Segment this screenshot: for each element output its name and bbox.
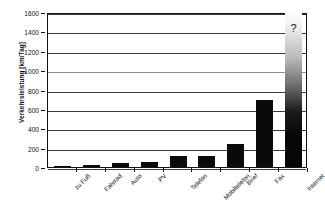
x-axis-tick-mark [307,168,308,172]
y-axis-tick-mark [41,168,45,169]
bar [285,12,302,167]
y-axis-tick-mark [41,91,45,92]
y-axis-tick-mark [41,13,45,14]
bar-series: ? [48,14,306,167]
y-axis-tick-label: 800 [28,87,39,94]
y-axis-tick-label: 1000 [24,68,39,75]
x-axis-tick-label: Internet [305,172,325,192]
bar [112,163,129,167]
x-axis-tick-label: Fahrrad [103,172,124,193]
x-axis-tick-label: Auto [129,172,143,186]
x-axis-tick-label: Telefon [189,172,208,191]
bar [227,144,244,167]
x-axis-tick-label: zu Fuß [73,172,92,191]
bar [256,100,273,167]
bar [198,156,215,167]
y-axis-tick-mark [41,71,45,72]
plot-area: ? [47,13,307,168]
y-axis-tick-label: 400 [28,126,39,133]
bar [54,166,71,167]
y-axis-tick-mark [41,52,45,53]
bar [141,162,158,167]
y-axis-tick-mark [41,129,45,130]
x-axis-tick-label: PV [157,172,168,183]
y-axis-tick-label: 200 [28,145,39,152]
y-axis-tick-labels: 02004006008001000120014001600 [0,13,45,168]
y-axis-tick-mark [41,32,45,33]
y-axis-tick-mark [41,149,45,150]
x-axis-tick-labels: zu FußFahrradAutoPVTelefonMobiltelefonBr… [47,168,307,217]
y-axis-tick-label: 1600 [24,10,39,17]
y-axis-tick-mark [41,110,45,111]
y-axis-tick-label: 0 [35,165,39,172]
x-axis-tick-label: Fax [273,172,285,184]
bar [170,156,187,167]
bar [83,165,100,167]
y-axis-tick-label: 1400 [24,29,39,36]
y-axis-tick-label: 1200 [24,48,39,55]
x-axis-tick-label: Mobiltelefon [222,172,251,201]
y-axis-tick-label: 600 [28,106,39,113]
unknown-value-annotation: ? [288,23,300,34]
